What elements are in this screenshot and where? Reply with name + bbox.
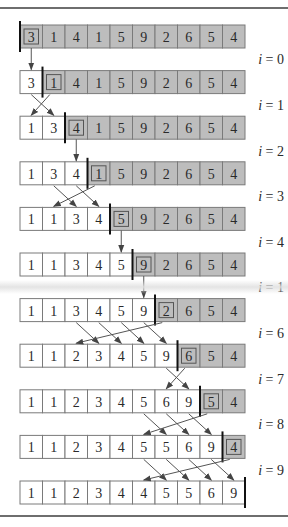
cell-value: 4 xyxy=(95,304,102,319)
cell-value: 1 xyxy=(28,121,35,136)
cell-value: 6 xyxy=(208,486,215,501)
cell-value: 1 xyxy=(28,212,35,227)
cell-value: 3 xyxy=(73,304,80,319)
shift-arrow xyxy=(166,414,189,435)
scan-artifact xyxy=(0,280,288,294)
cell-value: 4 xyxy=(73,121,80,136)
array-row: 1123459654 xyxy=(20,340,245,371)
transition-arrows xyxy=(54,186,99,207)
cell-value: 1 xyxy=(28,395,35,410)
array-row: 1341592654 xyxy=(20,112,245,143)
cell-value: 6 xyxy=(185,440,192,455)
shift-arrow xyxy=(211,459,234,480)
cell-value: 5 xyxy=(185,486,192,501)
cell-value: 1 xyxy=(28,486,35,501)
cell-value: 5 xyxy=(118,167,125,182)
cell-value: 9 xyxy=(230,486,237,501)
cell-value: 4 xyxy=(73,76,80,91)
cell-value: 1 xyxy=(50,395,57,410)
cell-value: 6 xyxy=(163,395,170,410)
cell-value: 2 xyxy=(163,30,170,45)
cell-value: 3 xyxy=(28,30,35,45)
cell-value: 5 xyxy=(208,395,215,410)
cell-value: 5 xyxy=(163,486,170,501)
cell-value: 2 xyxy=(163,304,170,319)
array-row: 1123455694 xyxy=(20,431,245,462)
cell-value: 1 xyxy=(50,440,57,455)
cell-value: 5 xyxy=(208,167,215,182)
shift-arrow xyxy=(121,323,144,344)
cell-value: 1 xyxy=(28,440,35,455)
cell-value: 2 xyxy=(73,349,80,364)
cell-value: 1 xyxy=(28,349,35,364)
cell-value: 5 xyxy=(140,349,147,364)
cell-value: 6 xyxy=(185,258,192,273)
array-row: 1341592654 xyxy=(20,158,245,189)
cell-value: 3 xyxy=(73,258,80,273)
cell-value: 4 xyxy=(230,395,237,410)
key-insert-arrow xyxy=(76,323,162,344)
cell-value: 4 xyxy=(95,258,102,273)
step-label: i = 2 xyxy=(258,144,284,159)
cell-value: 1 xyxy=(95,76,102,91)
cell-value: 9 xyxy=(185,395,192,410)
shift-arrow xyxy=(54,186,77,207)
cell-value: 6 xyxy=(185,304,192,319)
cell-value: 6 xyxy=(185,30,192,45)
cell-value: 3 xyxy=(95,395,102,410)
array-row: 1134592654 xyxy=(20,203,245,234)
cell-value: 3 xyxy=(73,212,80,227)
cell-value: 4 xyxy=(118,486,125,501)
step-label: i = 1 xyxy=(258,98,284,113)
cell-value: 5 xyxy=(208,258,215,273)
cell-value: 2 xyxy=(163,258,170,273)
cell-value: 4 xyxy=(118,395,125,410)
cell-value: 4 xyxy=(230,349,237,364)
shift-arrow xyxy=(189,414,212,435)
cell-value: 1 xyxy=(28,167,35,182)
cell-value: 2 xyxy=(163,167,170,182)
cell-value: 4 xyxy=(230,212,237,227)
cell-value: 9 xyxy=(140,212,147,227)
array-row: 1134592654 xyxy=(20,295,245,326)
step-label: i = 3 xyxy=(258,189,284,204)
array-row: 1123456954 xyxy=(20,386,245,417)
cell-value: 5 xyxy=(208,212,215,227)
cell-value: 1 xyxy=(50,258,57,273)
cell-value: 5 xyxy=(118,76,125,91)
shift-arrow xyxy=(144,323,167,344)
cell-value: 9 xyxy=(140,304,147,319)
cell-value: 4 xyxy=(73,167,80,182)
cell-value: 2 xyxy=(73,395,80,410)
cell-value: 5 xyxy=(140,395,147,410)
cell-value: 1 xyxy=(28,258,35,273)
cell-value: 1 xyxy=(95,167,102,182)
transition-arrows xyxy=(144,459,234,480)
cell-value: 5 xyxy=(208,304,215,319)
cell-value: 4 xyxy=(95,212,102,227)
cell-value: 4 xyxy=(230,440,237,455)
cell-value: 3 xyxy=(95,349,102,364)
cell-value: 1 xyxy=(50,349,57,364)
cell-value: 5 xyxy=(140,440,147,455)
step-label: i = 0 xyxy=(258,52,284,67)
cell-value: 5 xyxy=(163,440,170,455)
cell-value: 4 xyxy=(118,440,125,455)
array-row: 3141592654 xyxy=(20,21,245,52)
cell-value: 3 xyxy=(95,486,102,501)
step-label: i = 8 xyxy=(258,417,284,432)
cell-value: 4 xyxy=(230,30,237,45)
transition-arrows xyxy=(144,414,212,435)
cell-value: 4 xyxy=(118,349,125,364)
cell-value: 5 xyxy=(118,304,125,319)
transition-arrows xyxy=(76,323,166,344)
cell-value: 4 xyxy=(230,121,237,136)
cell-value: 2 xyxy=(73,440,80,455)
step-label: i = 7 xyxy=(258,372,284,387)
cell-value: 2 xyxy=(163,121,170,136)
cell-value: 9 xyxy=(208,440,215,455)
cell-value: 5 xyxy=(208,76,215,91)
cell-value: 3 xyxy=(28,76,35,91)
cell-value: 5 xyxy=(118,30,125,45)
step-label: i = 4 xyxy=(258,235,284,250)
